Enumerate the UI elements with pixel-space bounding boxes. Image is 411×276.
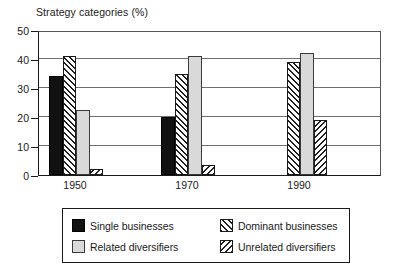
- bar-1970-single-businesses: [161, 117, 175, 175]
- x-axis: 195019701990: [38, 180, 381, 196]
- bar-1970-unrelated-diversifiers: [202, 165, 216, 175]
- y-tick-mark-30: [31, 89, 38, 90]
- bar-1970-related-diversifiers: [188, 56, 202, 175]
- forward-hatch-swatch-icon: [220, 219, 233, 232]
- x-tick-label-1990: 1990: [287, 180, 310, 191]
- bar-1990-dominant-businesses: [287, 62, 301, 175]
- y-tick-label-0: 0: [23, 171, 29, 182]
- bar-1950-single-businesses: [49, 76, 63, 175]
- gridline-30: [39, 87, 380, 88]
- solid-black-swatch-icon: [72, 219, 85, 232]
- y-tick-label-10: 10: [17, 142, 29, 153]
- y-tick-mark-50: [31, 31, 38, 32]
- plot-area: [38, 31, 381, 176]
- legend-entry-single-businesses: Single businesses: [72, 219, 220, 232]
- y-tick-mark-40: [31, 60, 38, 61]
- bar-1950-related-diversifiers: [76, 110, 90, 175]
- bar-1950-unrelated-diversifiers: [90, 169, 104, 175]
- bar-1950-dominant-businesses: [63, 56, 77, 175]
- chart-legend: Single businessesDominant businessesRela…: [62, 208, 350, 263]
- bar-1990-related-diversifiers: [300, 53, 314, 175]
- legend-label: Dominant businesses: [238, 220, 337, 232]
- x-tick-label-1970: 1970: [175, 180, 198, 191]
- back-hatch-swatch-icon: [220, 240, 233, 253]
- legend-entry-related-diversifiers: Related diversifiers: [72, 240, 220, 253]
- y-tick-mark-0: [31, 176, 38, 177]
- bar-1970-dominant-businesses: [175, 74, 189, 176]
- gridline-20: [39, 116, 380, 117]
- y-tick-label-40: 40: [17, 55, 29, 66]
- y-tick-label-20: 20: [17, 113, 29, 124]
- x-tick-label-1950: 1950: [63, 180, 86, 191]
- bar-1990-unrelated-diversifiers: [314, 120, 328, 175]
- light-gray-swatch-icon: [72, 240, 85, 253]
- legend-entry-dominant-businesses: Dominant businesses: [220, 219, 340, 232]
- gridline-10: [39, 145, 380, 146]
- legend-entry-unrelated-diversifiers: Unrelated diversifiers: [220, 240, 340, 253]
- y-tick-label-30: 30: [17, 84, 29, 95]
- legend-label: Unrelated diversifiers: [238, 241, 336, 253]
- y-tick-mark-10: [31, 147, 38, 148]
- y-axis: 01020304050: [0, 31, 38, 176]
- gridline-40: [39, 58, 380, 59]
- bar-chart-figure: Strategy categories (%) 01020304050 1950…: [0, 0, 411, 276]
- legend-label: Related diversifiers: [90, 241, 178, 253]
- legend-label: Single businesses: [90, 220, 174, 232]
- chart-title: Strategy categories (%): [36, 6, 148, 18]
- y-tick-label-50: 50: [17, 26, 29, 37]
- y-tick-mark-20: [31, 118, 38, 119]
